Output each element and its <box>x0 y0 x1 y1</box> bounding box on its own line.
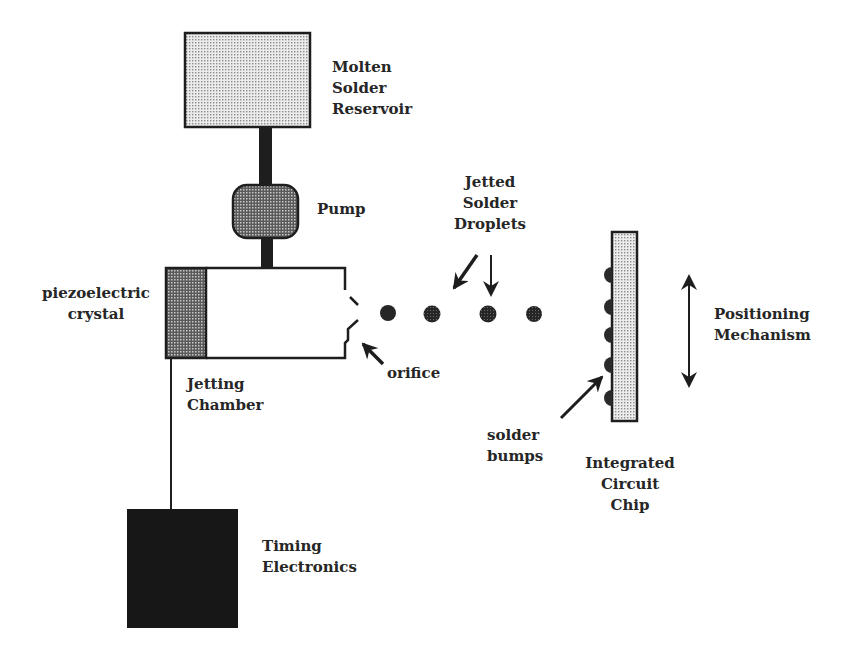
chip-label: Integrated Circuit Chip <box>580 453 680 516</box>
orifice-arrow <box>363 344 383 364</box>
jetting-chamber <box>206 268 358 358</box>
feed-pipe-upper <box>259 127 272 185</box>
solder-bumps-arrow <box>561 377 602 418</box>
timing-electronics-box <box>127 509 238 628</box>
positioning-label: Positioning Mechanism <box>714 304 811 346</box>
pump-label: Pump <box>317 199 366 220</box>
piezoelectric-crystal <box>166 268 206 358</box>
droplets-label: Jetted Solder Droplets <box>440 172 540 235</box>
solder-droplets <box>380 305 542 323</box>
reservoir-label: Molten Solder Reservoir <box>332 57 412 120</box>
molten-solder-reservoir <box>185 33 310 127</box>
integrated-circuit-chip <box>612 232 637 421</box>
feed-pipe-lower <box>261 238 273 268</box>
orifice-label: orifice <box>387 363 440 384</box>
solder-bumps-label: solder bumps <box>487 425 543 467</box>
crystal-label: piezoelectric crystal <box>36 283 156 325</box>
pump <box>233 185 298 238</box>
chamber-label: Jetting Chamber <box>187 374 263 416</box>
timing-label: Timing Electronics <box>262 536 357 578</box>
droplet-arrow-diagonal <box>454 255 477 288</box>
